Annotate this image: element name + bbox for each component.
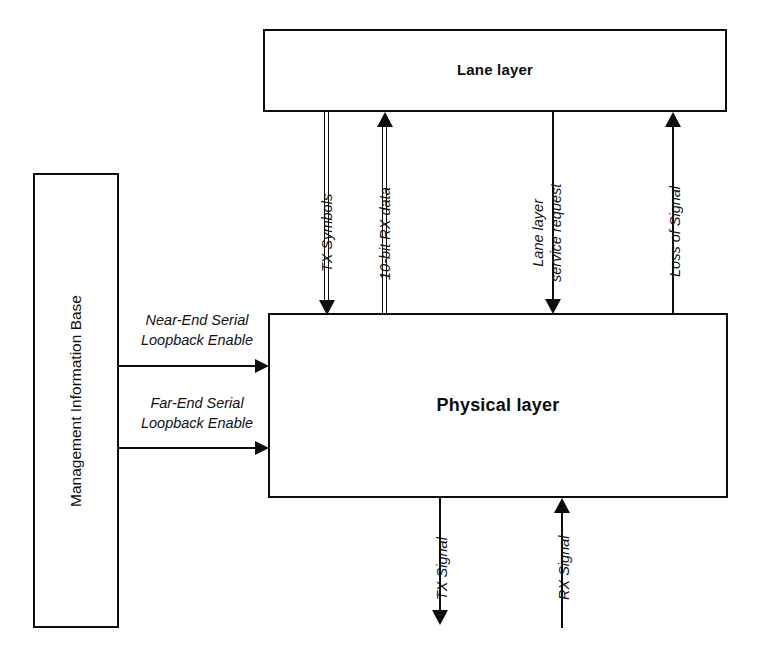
far-end-serial-loopback-arrowhead-right [255, 441, 269, 455]
tx-signal-arrowhead-down [432, 610, 448, 625]
lane-layer-box: Lane layer [263, 29, 727, 112]
lane-layer-label: Lane layer [265, 61, 725, 78]
lane-layer-service-request-arrowhead-down [545, 299, 561, 314]
loss-of-signal-label: Loss of Signal [666, 186, 684, 277]
layer-interface-diagram: Lane layer Physical layer Management Inf… [0, 0, 758, 661]
far-end-serial-loopback-label: Far-End Serial Loopback Enable [127, 394, 267, 433]
management-information-base-label: Management Information Base [67, 295, 85, 507]
lane-layer-service-request-label: Lane layer service request [529, 184, 565, 282]
physical-layer-label: Physical layer [270, 395, 726, 416]
tx-symbols-label: TX Symbols [318, 194, 336, 272]
ten-bit-rx-data-arrowhead-up [377, 112, 393, 127]
ten-bit-rx-data-label: 10-bit RX data [376, 187, 394, 280]
near-end-serial-loopback-connector-line [119, 365, 255, 367]
rx-signal-label: RX Signal [555, 536, 573, 600]
near-end-serial-loopback-label: Near-End Serial Loopback Enable [127, 311, 267, 350]
physical-layer-box: Physical layer [268, 313, 728, 498]
tx-signal-label: TX Signal [433, 537, 451, 600]
management-information-base-box: Management Information Base [33, 173, 119, 628]
loss-of-signal-arrowhead-up [665, 112, 681, 127]
rx-signal-arrowhead-up [554, 498, 570, 513]
far-end-serial-loopback-connector-line [119, 447, 255, 449]
near-end-serial-loopback-arrowhead-right [255, 359, 269, 373]
tx-symbols-arrowhead-down [319, 300, 335, 315]
